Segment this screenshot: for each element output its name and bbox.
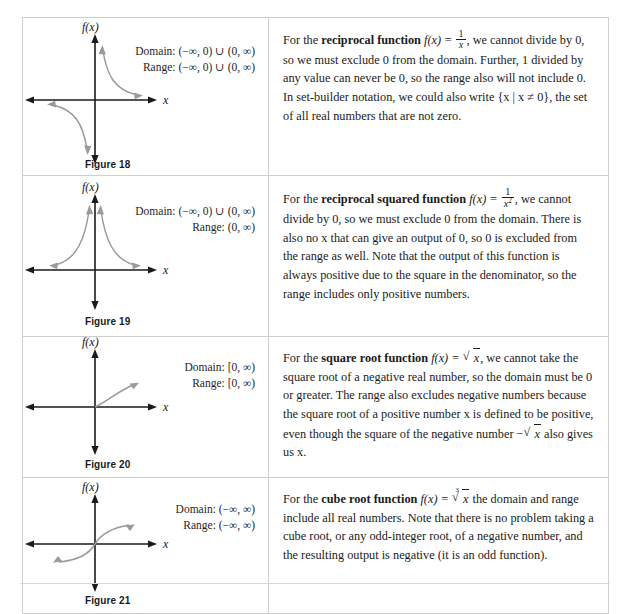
figure-caption: Figure 18	[85, 159, 130, 170]
text-cell-reciprocal: For the reciprocal function f(x) = 1x, w…	[269, 18, 609, 176]
function-name: reciprocal squared function	[321, 192, 466, 206]
domain-range-block: Domain: (−∞, 0) ∪ (0, ∞) Range: (0, ∞)	[115, 203, 255, 236]
range-label: Range: (−∞, ∞)	[115, 517, 255, 533]
text-cell-cube-root: For the cube root function f(x) = 3√x th…	[269, 478, 609, 614]
fraction-one-over-x: 1x	[456, 29, 465, 51]
paragraph-lead: For the	[283, 192, 321, 206]
radical-sign-icon: √	[452, 488, 459, 507]
table-row: f(x) x Domain: (−∞, 0) ∪ (0, ∞) Range: (…	[23, 18, 609, 176]
radicand: x	[534, 424, 541, 444]
x-axis-label: x	[162, 263, 169, 277]
paragraph-body: , we cannot divide by 0, so we must excl…	[283, 192, 581, 300]
domain-range-block: Domain: (−∞, ∞) Range: (−∞, ∞)	[115, 501, 255, 534]
domain-label: Domain: (−∞, 0) ∪ (0, ∞)	[115, 43, 255, 59]
graph-cell-reciprocal-squared: f(x) x Domain: (−∞, 0) ∪ (0, ∞) Range: (…	[23, 176, 269, 337]
x-axis-label: x	[162, 93, 169, 107]
text-cell-square-root: For the square root function f(x) = √x, …	[269, 337, 609, 478]
function-name: cube root function	[321, 492, 417, 506]
page-bottom-rule	[20, 583, 610, 584]
fraction-denominator: x2	[502, 197, 514, 210]
paragraph-reciprocal-squared: For the reciprocal squared function f(x)…	[269, 176, 608, 313]
domain-range-block: Domain: [0, ∞) Range: [0, ∞)	[115, 359, 255, 392]
radicand: x	[462, 489, 469, 509]
figure-caption: Figure 21	[85, 595, 130, 606]
graph-cell-square-root: f(x) x Domain: [0, ∞) Range: [0, ∞) Figu…	[23, 337, 269, 478]
fraction-numerator: 1	[502, 187, 514, 197]
table-row: f(x) x Domain: [0, ∞) Range: [0, ∞) Figu…	[23, 337, 609, 478]
graph-cell-reciprocal: f(x) x Domain: (−∞, 0) ∪ (0, ∞) Range: (…	[23, 18, 269, 176]
y-axis-label: f(x)	[82, 337, 99, 349]
fraction-one-over-x-squared: 1x2	[502, 187, 514, 210]
figure-caption: Figure 19	[85, 316, 130, 327]
function-definition-prefix: f(x) =	[417, 492, 452, 506]
graph-reciprocal-squared: f(x) x	[23, 176, 268, 336]
graph-square-root: f(x) x	[23, 337, 268, 477]
graph-cell-cube-root: f(x) x Domain: (−∞, ∞) Range: (−∞, ∞) Fi…	[23, 478, 269, 614]
radical-sqrt-x-tail: √x	[524, 424, 541, 444]
radical-cbrt-x: 3√x	[452, 489, 469, 509]
radical-sign-icon: √	[524, 423, 531, 442]
paragraph-lead: For the	[283, 351, 321, 365]
text-cell-reciprocal-squared: For the reciprocal squared function f(x)…	[269, 176, 609, 337]
function-definition-prefix: f(x) =	[466, 192, 501, 206]
x-axis-label: x	[162, 400, 169, 414]
function-name: reciprocal function	[321, 33, 421, 47]
fraction-denominator: x	[456, 39, 465, 50]
range-label: Range: [0, ∞)	[115, 375, 255, 391]
function-toolkit-table: f(x) x Domain: (−∞, 0) ∪ (0, ∞) Range: (…	[22, 17, 609, 614]
domain-label: Domain: [0, ∞)	[115, 359, 255, 375]
function-definition-prefix: f(x) =	[428, 351, 463, 365]
fraction-numerator: 1	[456, 29, 465, 39]
x-axis-label: x	[162, 537, 169, 551]
graph-cube-root: f(x) x	[23, 478, 268, 613]
domain-label: Domain: (−∞, ∞)	[115, 501, 255, 517]
figure-caption: Figure 20	[85, 459, 130, 470]
domain-label: Domain: (−∞, 0) ∪ (0, ∞)	[115, 203, 255, 219]
paragraph-lead: For the	[283, 33, 321, 47]
domain-range-block: Domain: (−∞, 0) ∪ (0, ∞) Range: (−∞, 0) …	[115, 43, 255, 76]
paragraph-reciprocal: For the reciprocal function f(x) = 1x, w…	[269, 18, 608, 135]
table-row: f(x) x Domain: (−∞, ∞) Range: (−∞, ∞) Fi…	[23, 478, 609, 614]
function-definition-prefix: f(x) =	[421, 33, 456, 47]
paragraph-square-root: For the square root function f(x) = √x, …	[269, 337, 608, 472]
radical-sqrt-x: √x	[463, 348, 480, 368]
denominator-exponent: 2	[508, 197, 512, 205]
y-axis-label: f(x)	[82, 180, 99, 194]
negative-sign: −	[517, 427, 524, 441]
paragraph-cube-root: For the cube root function f(x) = 3√x th…	[269, 478, 608, 575]
radical-sign-icon: √	[463, 347, 470, 366]
radicand: x	[473, 348, 480, 368]
y-axis-label: f(x)	[82, 20, 99, 34]
function-name: square root function	[321, 351, 428, 365]
paragraph-lead: For the	[283, 492, 321, 506]
graph-reciprocal: f(x) x	[23, 18, 268, 175]
range-label: Range: (−∞, 0) ∪ (0, ∞)	[115, 59, 255, 75]
table-row: f(x) x Domain: (−∞, 0) ∪ (0, ∞) Range: (…	[23, 176, 609, 337]
range-label: Range: (0, ∞)	[115, 219, 255, 235]
y-axis-label: f(x)	[82, 480, 99, 494]
